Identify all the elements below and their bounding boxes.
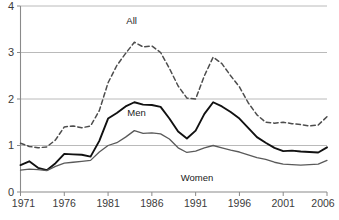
series-label-women: Women [180, 173, 215, 183]
x-tick-label-1976: 1976 [47, 198, 81, 209]
x-tick-label-2001: 2001 [266, 198, 300, 209]
x-tick-label-1986: 1986 [135, 198, 169, 209]
y-tick-label-2: 2 [0, 94, 14, 105]
y-tick-label-1: 1 [0, 140, 14, 151]
series-line-all [21, 42, 328, 148]
x-tick-label-1991: 1991 [179, 198, 213, 209]
x-tick-label-1981: 1981 [91, 198, 125, 209]
series-label-all: All [125, 16, 138, 26]
series-label-men: Men [126, 108, 146, 118]
x-tick-label-1971: 1971 [7, 198, 41, 209]
x-tick-label-1996: 1996 [222, 198, 256, 209]
y-tick-label-0: 0 [0, 187, 14, 198]
y-tick-label-3: 3 [0, 47, 14, 58]
y-tick-label-4: 4 [0, 1, 14, 12]
x-tick-label-2006: 2006 [306, 198, 339, 209]
series-line-men [21, 102, 328, 170]
